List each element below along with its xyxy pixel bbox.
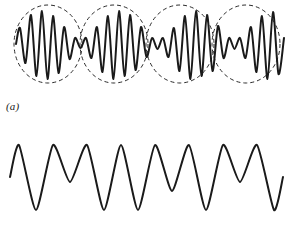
- panel-b-plot: [0, 120, 290, 243]
- modulated-wave: [16, 11, 284, 79]
- waveform-group: [16, 11, 284, 79]
- figure-container: (a) (b): [0, 0, 290, 243]
- panel-a-label: (a): [6, 101, 19, 112]
- panel-a-plot: [0, 0, 290, 120]
- panel-a: (a): [0, 0, 290, 120]
- waveform-group: [10, 145, 283, 210]
- beat-wave: [10, 145, 283, 210]
- panel-b: (b): [0, 120, 290, 243]
